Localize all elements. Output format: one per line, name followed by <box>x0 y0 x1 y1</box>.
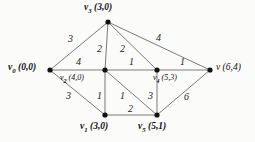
edge-weight-v0-v3: 3 <box>68 34 73 44</box>
edge-weight-v1-v5: 2 <box>128 104 133 114</box>
vertex-label-v0: v0 (0,0) <box>8 63 36 75</box>
vertex-label-v1: v1 (3,0) <box>80 122 108 134</box>
vertex-coord-v4: (5,3) <box>162 73 177 82</box>
edge-weight-v3-v4: 2 <box>120 44 125 54</box>
graph-node-v5 <box>154 112 159 117</box>
edge-weight-v2-v1: 1 <box>97 91 102 101</box>
vertex-coord-v1: (3,0) <box>90 121 108 131</box>
vertex-label-v5: v5 (5,1) <box>138 122 166 134</box>
edge-weight-v0-v1: 3 <box>66 91 71 101</box>
vertex-coord-v5: (5,1) <box>148 121 166 131</box>
edge-weight-v5-v: 6 <box>184 92 189 102</box>
edge-weight-v4-v: 1 <box>180 57 185 67</box>
vertex-name-v: v <box>216 62 220 72</box>
vertex-label-v2: v2 (4,0) <box>60 74 84 84</box>
edge-weight-v3-v2: 2 <box>97 44 102 54</box>
vertex-coord-v0: (0,0) <box>18 62 36 72</box>
vertex-subscript-v5: 5 <box>142 126 145 133</box>
edge-weight-v0-v2: 4 <box>76 57 81 67</box>
edge-weight-v3-v: 4 <box>156 33 161 43</box>
vertex-subscript-v1: 1 <box>84 126 87 133</box>
graph-node-v2 <box>102 67 107 72</box>
graph-node-v1 <box>102 112 107 117</box>
graph-node-v4 <box>154 67 159 72</box>
vertex-coord-v2: (4,0) <box>69 73 84 82</box>
vertex-coord-v: (6,4) <box>223 62 241 72</box>
vertex-subscript-v0: 0 <box>12 67 15 74</box>
edge-weight-v2-v4: 1 <box>129 57 134 67</box>
vertex-label-v4: v4 (5,3) <box>153 74 177 84</box>
graph-node-v <box>207 67 212 72</box>
vertex-subscript-v2: 2 <box>64 78 67 84</box>
vertex-label-v: v (6,4) <box>216 63 241 73</box>
vertex-label-v3: v3 (3,0) <box>84 3 112 15</box>
vertex-subscript-v4: 4 <box>157 78 160 84</box>
vertex-coord-v3: (3,0) <box>94 2 112 12</box>
graph-node-v0 <box>47 67 52 72</box>
graph-node-v3 <box>105 19 110 24</box>
graph-edge-v3-v2 <box>105 22 108 70</box>
vertex-subscript-v3: 3 <box>88 7 91 14</box>
edge-weight-v2-v5: 1 <box>120 91 125 101</box>
edge-weight-v4-v5: 3 <box>148 91 153 101</box>
graph-diagram: 3432241111326 v0 (0,0)v3 (3,0)v2 (4,0)v4… <box>0 0 255 142</box>
